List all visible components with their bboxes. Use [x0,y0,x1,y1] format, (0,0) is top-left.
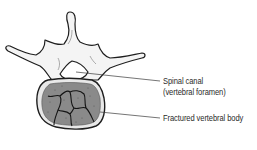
leader-line-fractured-body [100,112,160,118]
label-spinal-canal: Spinal canal [163,76,203,86]
label-vertebral-foramen: (vertebral foramen) [163,87,226,97]
vertebra-diagram [0,0,257,150]
label-fractured-vertebral-body: Fractured vertebral body [163,113,243,123]
vertebra-illustration [6,12,145,129]
